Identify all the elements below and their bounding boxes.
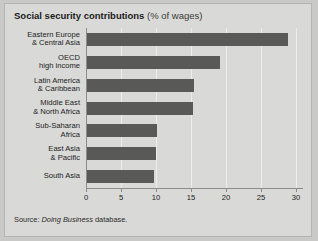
axis-tick [86, 189, 87, 192]
axis-tick [296, 189, 297, 192]
axis-tick [156, 189, 157, 192]
chart-panel: Social security contributions (% of wage… [4, 3, 312, 237]
category-label-line: Africa [61, 131, 80, 140]
source-note: Source: Doing Business database. [14, 215, 127, 224]
source-prefix: Source: [14, 215, 42, 224]
bar [87, 33, 288, 46]
bars-container [86, 28, 303, 188]
axis-tick-label: 0 [84, 193, 88, 202]
axis-tick-label: 10 [152, 193, 160, 202]
gridline [261, 28, 262, 188]
axis-tick-label: 15 [187, 193, 195, 202]
source-publication: Doing Business [42, 215, 93, 224]
axis-tick [121, 189, 122, 192]
category-label-line: & Central Asia [32, 39, 80, 48]
category-label-line: & Caribbean [38, 85, 80, 94]
axis-tick-label: 20 [222, 193, 230, 202]
source-suffix: database. [93, 215, 128, 224]
axis-tick [226, 189, 227, 192]
chart-title: Social security contributions (% of wage… [14, 10, 202, 21]
gridline [226, 28, 227, 188]
chart-title-sub: (% of wages) [147, 10, 202, 21]
axis-tick-label: 25 [257, 193, 265, 202]
bar [87, 170, 154, 183]
category-label: Sub-SaharanAfrica [14, 120, 80, 142]
axis-tick-label: 30 [292, 193, 300, 202]
bar [87, 56, 220, 69]
bar [87, 124, 157, 137]
category-label: East Asia& Pacific [14, 143, 80, 165]
value-axis: 051015202530 [86, 188, 303, 193]
plot-area: Eastern Europe& Central AsiaOECDhigh inc… [14, 28, 303, 200]
axis-tick [261, 189, 262, 192]
category-label-line: & Pacific [50, 154, 80, 163]
chart-title-main: Social security contributions [14, 10, 144, 21]
category-label: Middle East& North Africa [14, 97, 80, 119]
axis-tick-label: 5 [119, 193, 123, 202]
gridline [296, 28, 297, 188]
category-label-line: & North Africa [33, 108, 80, 117]
category-label-line: South Asia [44, 172, 80, 181]
category-label-line: high income [39, 62, 80, 71]
category-label: Eastern Europe& Central Asia [14, 28, 80, 50]
bar [87, 79, 194, 92]
category-label: Latin America& Caribbean [14, 74, 80, 96]
category-label: South Asia [14, 166, 80, 188]
bar [87, 147, 156, 160]
bar [87, 102, 193, 115]
axis-tick [191, 189, 192, 192]
category-label: OECDhigh income [14, 51, 80, 73]
